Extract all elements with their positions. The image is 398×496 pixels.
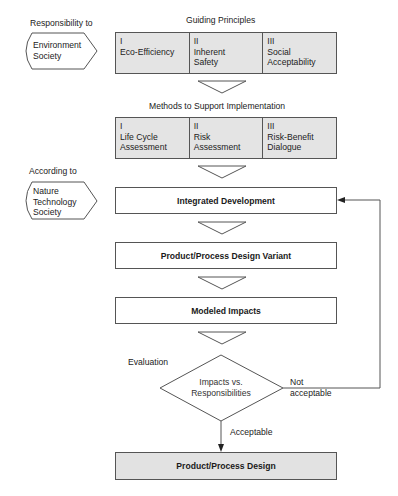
method-name: Life Cycle bbox=[120, 132, 189, 143]
not-acceptable-label: Not acceptable bbox=[290, 377, 332, 399]
responsibility-item: Environment bbox=[33, 40, 81, 51]
acceptable-label: Acceptable bbox=[230, 427, 273, 437]
acceptable-arrowhead bbox=[218, 444, 224, 452]
methods-title: Methods to Support Implementation bbox=[149, 101, 285, 111]
evaluation-label: Evaluation bbox=[128, 357, 168, 367]
principle-cell: I Eco-Efficiency bbox=[116, 33, 189, 73]
method-cell: II Risk Assessment bbox=[189, 118, 263, 158]
flow-triangle-5 bbox=[198, 332, 246, 344]
guiding-principles-title: Guiding Principles bbox=[186, 15, 255, 25]
not-acceptable-line-1: Not bbox=[290, 377, 332, 388]
method-cell: I Life Cycle Assessment bbox=[116, 118, 189, 158]
feedback-arrowhead bbox=[337, 197, 345, 203]
flow-triangle-2 bbox=[198, 166, 246, 178]
flow-triangle-3 bbox=[198, 222, 246, 234]
methods-box: I Life Cycle Assessment II Risk Assessme… bbox=[115, 117, 337, 159]
principle-cell: II Inherent Safety bbox=[189, 33, 263, 73]
method-name-2: Assessment bbox=[194, 142, 263, 153]
method-cell: III Risk-Benefit Dialogue bbox=[262, 118, 336, 158]
integrated-development-box: Integrated Development bbox=[115, 187, 337, 214]
principle-name: Inherent bbox=[194, 47, 263, 58]
principle-numeral: III bbox=[267, 36, 336, 47]
according-item: Nature bbox=[33, 186, 76, 197]
principle-name-2: Safety bbox=[194, 57, 263, 68]
method-name-2: Assessment bbox=[120, 142, 189, 153]
feedback-line bbox=[283, 200, 380, 388]
according-item: Technology bbox=[33, 197, 76, 208]
principle-name: Eco-Efficiency bbox=[120, 47, 189, 58]
decision-line-1: Impacts vs. bbox=[176, 377, 266, 388]
method-numeral: I bbox=[120, 121, 189, 132]
responsibility-label: Responsibility to bbox=[30, 18, 93, 28]
method-numeral: II bbox=[194, 121, 263, 132]
principle-numeral: II bbox=[194, 36, 263, 47]
method-numeral: III bbox=[267, 121, 336, 132]
responsibility-items: Environment Society bbox=[33, 40, 81, 61]
design-variant-box: Product/Process Design Variant bbox=[115, 242, 337, 269]
according-item: Society bbox=[33, 207, 76, 218]
method-name: Risk-Benefit bbox=[267, 132, 336, 143]
principle-cell: III Social Acceptability bbox=[262, 33, 336, 73]
guiding-principles-box: I Eco-Efficiency II Inherent Safety III … bbox=[115, 32, 337, 74]
decision-line-2: Responsibilities bbox=[176, 388, 266, 399]
method-name: Risk bbox=[194, 132, 263, 143]
according-items: Nature Technology Society bbox=[33, 186, 76, 218]
modeled-impacts-box: Modeled Impacts bbox=[115, 297, 337, 324]
method-name-2: Dialogue bbox=[267, 142, 336, 153]
according-label: According to bbox=[29, 166, 77, 176]
principle-name-2: Acceptability bbox=[267, 57, 336, 68]
flow-triangle-1 bbox=[198, 81, 246, 93]
flow-triangle-4 bbox=[198, 277, 246, 289]
principle-name: Social bbox=[267, 47, 336, 58]
responsibility-item: Society bbox=[33, 51, 81, 62]
principle-numeral: I bbox=[120, 36, 189, 47]
not-acceptable-line-2: acceptable bbox=[290, 388, 332, 399]
decision-text: Impacts vs. Responsibilities bbox=[176, 377, 266, 398]
final-design-box: Product/Process Design bbox=[115, 452, 337, 480]
